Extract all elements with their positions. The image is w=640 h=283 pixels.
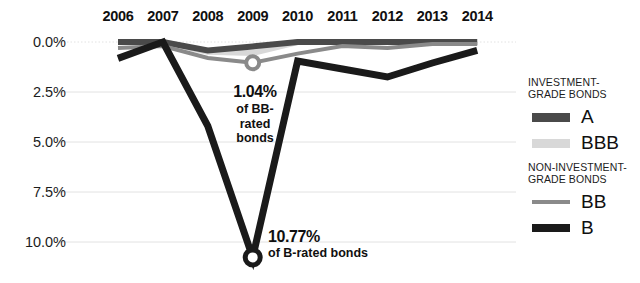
year-label-2010: 2010 <box>282 8 313 24</box>
legend-label-a: A <box>581 107 594 127</box>
bond-default-rate-chart: 200620072008200920102011201220132014 0.0… <box>0 0 640 283</box>
year-label-2009: 2009 <box>237 8 268 24</box>
legend-swatch-a <box>528 113 574 122</box>
b-callout-description: of B-rated bonds <box>268 246 368 261</box>
b-callout-annotation: 10.77% of B-rated bonds <box>268 228 368 261</box>
legend-label-bbb: BBB <box>581 133 619 153</box>
legend-group-1: INVESTMENT- GRADE BONDSABBB <box>528 76 640 156</box>
y-tick-50: 5.0% <box>33 135 66 149</box>
year-label-2014: 2014 <box>462 8 493 24</box>
year-label-2011: 2011 <box>327 8 357 24</box>
year-label-2013: 2013 <box>417 8 448 24</box>
year-label-2008: 2008 <box>192 8 223 24</box>
y-tick-100: 10.0% <box>25 235 66 249</box>
year-label-2012: 2012 <box>372 8 403 24</box>
year-label-2007: 2007 <box>147 8 178 24</box>
series-lines <box>118 42 477 257</box>
legend-label-b: B <box>581 218 594 238</box>
legend-item-b[interactable]: B <box>528 215 640 241</box>
legend-group-title: INVESTMENT- GRADE BONDS <box>528 76 640 100</box>
legend-item-bb[interactable]: BB <box>528 189 640 215</box>
b-callout-value: 10.77% <box>268 228 368 246</box>
series-line-b <box>118 42 477 257</box>
chart-legend: INVESTMENT- GRADE BONDSABBBNON-INVESTMEN… <box>528 76 640 241</box>
legend-item-a[interactable]: A <box>528 104 640 130</box>
marker-b <box>245 250 260 265</box>
legend-label-bb: BB <box>581 192 606 212</box>
legend-group-title: NON-INVESTMENT- GRADE BONDS <box>528 161 640 185</box>
marker-bb <box>246 56 259 69</box>
legend-swatch-bb <box>528 200 574 204</box>
bb-callout-annotation: 1.04% of BB-ratedbonds <box>218 82 292 146</box>
legend-group-2: NON-INVESTMENT- GRADE BONDSBBB <box>528 161 640 241</box>
bb-callout-description: of BB-ratedbonds <box>218 102 292 146</box>
y-tick-25: 2.5% <box>33 85 66 99</box>
year-label-2006: 2006 <box>102 8 133 24</box>
y-axis-tick-labels: 0.0%2.5%5.0%7.5%10.0% <box>0 0 66 283</box>
legend-item-bbb[interactable]: BBB <box>528 130 640 156</box>
legend-swatch-b <box>528 224 574 232</box>
y-tick-75: 7.5% <box>33 185 66 199</box>
bb-callout-value: 1.04% <box>218 82 292 101</box>
legend-swatch-bbb <box>528 139 574 148</box>
y-tick-00: 0.0% <box>33 35 66 49</box>
